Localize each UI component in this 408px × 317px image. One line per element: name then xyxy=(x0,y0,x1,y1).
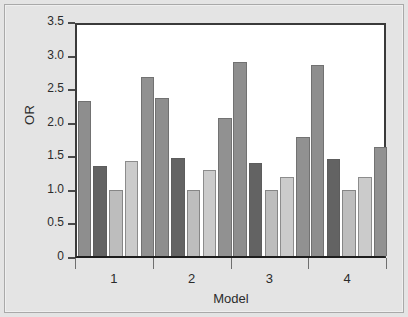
y-tick-mark xyxy=(68,22,75,24)
y-tick-mark xyxy=(68,56,75,58)
x-tick-label: 4 xyxy=(344,271,351,286)
x-tick-label: 3 xyxy=(266,271,273,286)
bar xyxy=(125,161,139,256)
bar xyxy=(296,137,310,257)
x-tick-label: 2 xyxy=(188,271,195,286)
bar xyxy=(93,166,107,256)
bars-layer xyxy=(77,25,384,256)
x-axis-separator xyxy=(386,258,387,269)
x-axis-separator xyxy=(75,258,76,269)
y-tick-label: 0 xyxy=(57,249,64,263)
bar xyxy=(141,77,155,256)
bar xyxy=(311,65,325,256)
y-axis-label: OR xyxy=(22,105,37,125)
x-axis-separator xyxy=(308,258,309,269)
bar xyxy=(265,190,279,256)
bar xyxy=(187,190,201,256)
bar xyxy=(374,147,388,256)
bar xyxy=(155,98,169,256)
x-axis-label: Model xyxy=(213,291,248,306)
x-axis: Model 1234 xyxy=(75,258,388,308)
y-tick-label: 3.5 xyxy=(47,14,64,28)
y-tick-label: 1.0 xyxy=(47,182,64,196)
x-axis-separator xyxy=(153,258,154,269)
y-tick-label: 3.0 xyxy=(47,48,64,62)
bar xyxy=(327,159,341,256)
x-axis-separator xyxy=(231,258,232,269)
y-tick-mark xyxy=(68,257,75,259)
bar xyxy=(342,190,356,256)
bar xyxy=(280,177,294,256)
y-axis: 00.51.01.52.02.53.03.5 xyxy=(0,0,75,262)
chart-figure: 00.51.01.52.02.53.03.5 OR Model 1234 xyxy=(0,0,408,317)
plot-area xyxy=(75,23,386,258)
y-tick-mark xyxy=(68,223,75,225)
bar xyxy=(249,163,263,256)
y-tick-mark xyxy=(68,89,75,91)
y-tick-label: 2.5 xyxy=(47,81,64,95)
bar xyxy=(218,118,232,256)
y-tick-label: 0.5 xyxy=(47,215,64,229)
y-tick-mark xyxy=(68,123,75,125)
y-tick-mark xyxy=(68,190,75,192)
y-tick-label: 2.0 xyxy=(47,115,64,129)
y-tick-label: 1.5 xyxy=(47,148,64,162)
bar xyxy=(78,101,92,256)
bar xyxy=(109,190,123,256)
x-tick-label: 1 xyxy=(110,271,117,286)
bar xyxy=(358,177,372,256)
bar xyxy=(203,170,217,256)
bar xyxy=(233,62,247,256)
bar xyxy=(171,158,185,256)
y-tick-mark xyxy=(68,156,75,158)
